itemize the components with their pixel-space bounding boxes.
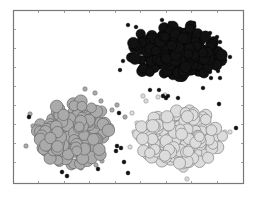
- data-point: [52, 141, 64, 153]
- data-point: [195, 132, 205, 142]
- outlier-point: [130, 111, 134, 115]
- data-point: [216, 49, 227, 60]
- outlier-point: [156, 95, 160, 99]
- data-point: [102, 124, 114, 136]
- data-point: [183, 146, 194, 157]
- outlier-point: [110, 108, 114, 112]
- outlier-point: [94, 163, 98, 167]
- chart-background: [0, 0, 255, 199]
- data-point: [161, 32, 170, 41]
- outlier-point: [176, 96, 180, 100]
- outlier-point-dark: [217, 102, 221, 106]
- data-point: [201, 114, 212, 125]
- outlier-point: [128, 145, 132, 149]
- outlier-point-dark: [119, 146, 123, 150]
- outlier-point-dark: [65, 174, 69, 178]
- data-point: [176, 128, 188, 140]
- outlier-point: [93, 91, 97, 95]
- outlier-point: [115, 103, 119, 107]
- outlier-point: [126, 23, 130, 27]
- outlier-point: [209, 76, 213, 80]
- data-point: [72, 146, 82, 156]
- outlier-point-dark: [117, 111, 121, 115]
- outlier-point: [148, 88, 152, 92]
- data-point: [147, 120, 159, 132]
- outlier-point-dark: [234, 126, 238, 130]
- outlier-point: [201, 86, 205, 90]
- outlier-point: [83, 87, 87, 91]
- data-point: [136, 121, 148, 133]
- outlier-point-dark: [115, 144, 119, 148]
- data-point: [200, 31, 211, 42]
- data-point: [173, 157, 185, 169]
- outlier-point: [218, 76, 222, 80]
- outlier-point: [166, 94, 170, 98]
- outlier-point: [134, 25, 138, 29]
- data-point: [198, 48, 208, 58]
- outlier-point-dark: [114, 149, 118, 153]
- data-point: [128, 37, 140, 49]
- scatter-chart: [0, 0, 255, 199]
- outlier-point: [144, 99, 148, 103]
- data-point: [151, 46, 160, 55]
- outlier-point: [160, 18, 164, 22]
- outlier-point: [218, 40, 222, 44]
- data-point: [181, 111, 193, 123]
- outlier-point: [24, 144, 28, 148]
- outlier-point: [121, 59, 125, 63]
- outlier-point: [141, 94, 145, 98]
- data-point: [77, 101, 87, 111]
- data-point: [167, 40, 177, 50]
- data-point: [184, 49, 193, 58]
- outlier-point-dark: [126, 171, 130, 175]
- outlier-point-dark: [122, 160, 126, 164]
- data-point: [180, 61, 191, 72]
- outlier-point: [99, 99, 103, 103]
- data-point: [161, 111, 173, 123]
- data-point: [58, 109, 69, 120]
- data-point: [88, 133, 100, 145]
- outlier-point-dark: [60, 170, 64, 174]
- data-point: [145, 148, 155, 158]
- data-point: [202, 152, 213, 163]
- outlier-point: [123, 115, 127, 119]
- outlier-point-dark: [96, 167, 100, 171]
- outlier-point: [157, 88, 161, 92]
- outlier-point-dark: [27, 115, 31, 119]
- outlier-point: [228, 130, 232, 134]
- data-point: [137, 133, 149, 145]
- data-point: [146, 68, 155, 77]
- outlier-point: [118, 68, 122, 72]
- data-point: [74, 122, 84, 132]
- outlier-point: [185, 177, 189, 181]
- outlier-point: [228, 55, 232, 59]
- data-point: [87, 103, 97, 113]
- data-point: [206, 125, 217, 136]
- data-point: [159, 150, 170, 161]
